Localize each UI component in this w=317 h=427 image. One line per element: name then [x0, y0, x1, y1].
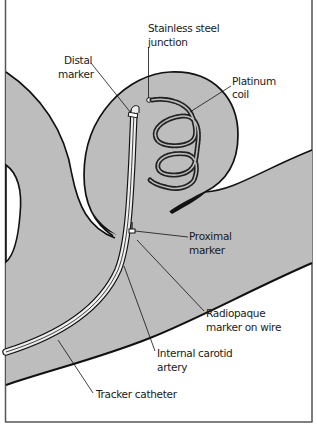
- coil-embolization-diagram: Stainless steel junction Distal marker P…: [0, 0, 317, 427]
- label-tracker-catheter: Tracker catheter: [95, 388, 178, 400]
- label-internal-carotid-artery-2: artery: [157, 361, 187, 373]
- label-stainless-steel-junction-2: junction: [147, 36, 188, 48]
- label-stainless-steel-junction-1: Stainless steel: [148, 22, 219, 34]
- label-internal-carotid-artery-1: Internal carotid: [157, 347, 232, 359]
- label-proximal-marker-2: marker: [189, 244, 226, 256]
- label-platinum-coil-1: Platinum: [232, 75, 276, 87]
- distal-marker-band: [128, 112, 138, 118]
- label-radiopaque-marker-2: marker on wire: [206, 321, 281, 333]
- label-radiopaque-marker-1: Radiopaque: [206, 307, 265, 319]
- label-distal-marker-2: marker: [58, 68, 95, 80]
- label-platinum-coil-2: coil: [232, 88, 249, 100]
- label-proximal-marker-1: Proximal: [189, 230, 232, 242]
- label-distal-marker-1: Distal: [64, 54, 92, 66]
